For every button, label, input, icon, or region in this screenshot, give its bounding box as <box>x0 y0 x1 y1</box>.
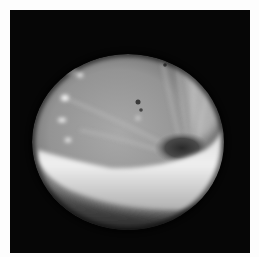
endoscopy-image-frame <box>10 10 250 253</box>
illuminated-field <box>10 50 224 253</box>
endoscopy-image <box>10 10 250 253</box>
